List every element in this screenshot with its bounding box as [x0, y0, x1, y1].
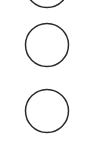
canvas-background — [0, 0, 94, 148]
drawing-canvas — [0, 0, 94, 148]
circle-column-svg — [0, 0, 94, 148]
